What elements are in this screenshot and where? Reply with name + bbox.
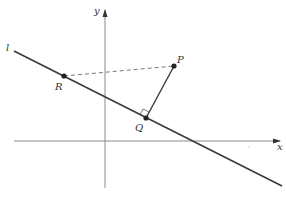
- point-p: [171, 63, 176, 68]
- point-q: [143, 115, 148, 120]
- point-r: [61, 73, 66, 78]
- segment-rp-dashed: [64, 66, 174, 76]
- point-r-label: R: [54, 81, 63, 92]
- coordinate-diagram: y x l R P Q: [0, 0, 286, 197]
- y-axis-label: y: [93, 5, 100, 16]
- x-axis-label: x: [277, 141, 283, 152]
- line-l-label: l: [6, 42, 9, 53]
- point-p-label: P: [176, 54, 184, 65]
- point-q-label: Q: [135, 122, 143, 133]
- stray-mark: [248, 146, 249, 147]
- segment-pq-perpendicular: [146, 66, 174, 118]
